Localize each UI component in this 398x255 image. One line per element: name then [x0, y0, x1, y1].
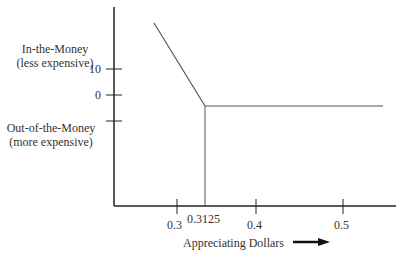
payoff-line [154, 23, 383, 106]
x-tick-label-0.5: 0.5 [334, 218, 349, 232]
out-of-the-money-line2: (more expensive) [3, 135, 99, 149]
x-tick-label-0.3: 0.3 [167, 218, 182, 232]
out-of-the-money-line1: Out-of-the-Money [3, 121, 99, 135]
in-the-money-label: In-the-Money (less expensive) [10, 42, 100, 70]
in-the-money-line1: In-the-Money [10, 42, 100, 56]
out-of-the-money-label: Out-of-the-Money (more expensive) [3, 121, 99, 149]
y-tick-label-0: 0 [95, 88, 101, 102]
x-tick-label-0.4: 0.4 [247, 218, 262, 232]
x-axis-title: Appreciating Dollars [183, 236, 284, 250]
in-the-money-line2: (less expensive) [10, 56, 100, 70]
x-tick-label-0.3125: 0.3125 [187, 212, 220, 226]
arrow-head-icon [318, 238, 330, 246]
y-tick-label-10: 10 [89, 62, 101, 76]
